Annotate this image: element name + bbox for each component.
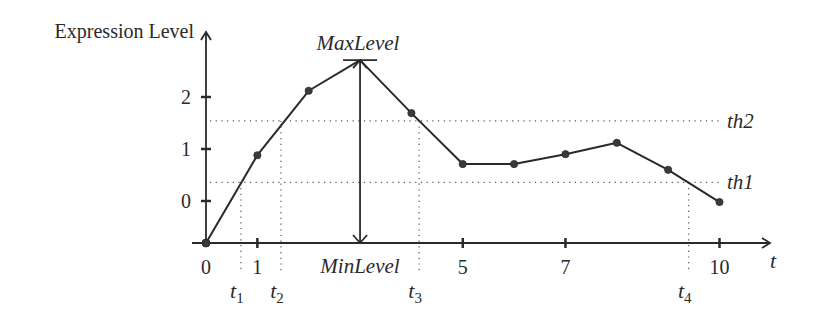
y-tick-label: 0 [181,190,191,212]
data-point [305,87,312,94]
data-point [665,166,672,173]
data-point [459,160,466,167]
threshold-lines: th1th2 [210,109,754,194]
min-level-label: MinLevel [319,254,399,278]
max-level-label: MaxLevel [316,31,400,55]
y-axis-label: Expression Level [55,20,195,43]
data-point [408,110,415,117]
x-tick-label: 7 [560,256,570,278]
max-min-range-arrow [202,60,377,247]
data-point [510,160,517,167]
t2-label: t2 [270,278,284,306]
x-tick-label: 5 [458,256,468,278]
expression-level-chart: th1th2 t1t2t3t4 012 015710 Expression Le… [0,0,814,312]
expression-series-line [206,60,720,243]
t3-label: t3 [408,278,422,306]
y-tick-label: 1 [181,138,191,160]
th2-label: th2 [727,109,754,133]
data-point [202,240,209,247]
x-tick-label: 0 [201,256,211,278]
x-tick-label: 1 [252,256,262,278]
data-point [562,151,569,158]
y-tick-label: 2 [181,86,191,108]
x-ticks: 015710 [201,238,730,278]
t4-label: t4 [678,278,692,306]
data-point [716,198,723,205]
x-axis-label: t [770,248,777,273]
t1-label: t1 [230,278,244,306]
data-point [613,139,620,146]
th1-label: th1 [727,170,754,194]
data-point [254,152,261,159]
x-tick-label: 10 [710,256,730,278]
crossing-markers: t1t2t3t4 [230,121,692,306]
